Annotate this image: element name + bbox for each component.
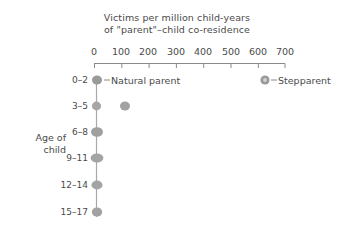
y-axis-title-line-2: child (8, 144, 66, 156)
legend-marker-stepparent-inner (263, 78, 267, 82)
y-axis-title: Age of child (8, 132, 66, 156)
marker-0-2 (92, 75, 102, 84)
marker-15-17 (92, 207, 102, 216)
plot-area (0, 0, 354, 238)
y-category-label-3-5: 3–5 (56, 101, 88, 111)
marker-12-14 (91, 181, 102, 190)
marker-3-5-stepparent (120, 101, 130, 110)
y-axis-title-line-1: Age of (8, 132, 66, 144)
marker-3-5-natural-parent (92, 102, 101, 111)
y-category-label-15-17: 15–17 (48, 207, 88, 217)
y-category-label-12-14: 12–14 (48, 180, 88, 190)
y-category-label-0-2: 0–2 (56, 75, 88, 85)
marker-6-8 (91, 127, 103, 137)
dot-chart: Victims per million child-years of "pare… (0, 0, 354, 238)
legend-label-stepparent: Stepparent (278, 75, 331, 86)
legend-label-natural-parent: Natural parent (111, 75, 180, 86)
marker-9-11 (91, 153, 104, 162)
